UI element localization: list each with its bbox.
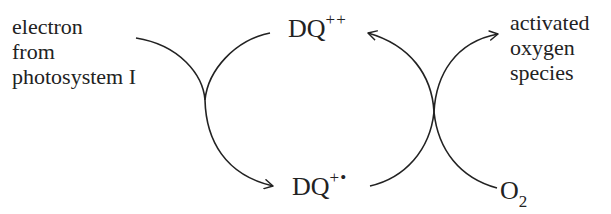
oxygen-to-activated-arrow xyxy=(434,34,498,188)
dq-oxidized-to-cusp-curve xyxy=(205,33,270,100)
electron-input-arrow xyxy=(136,38,273,186)
redox-cycle-diagram: electron from photosystem I activated ox… xyxy=(0,0,611,214)
dq-radical-to-oxidized-arrow xyxy=(368,33,434,186)
arrow-curves xyxy=(0,0,611,214)
